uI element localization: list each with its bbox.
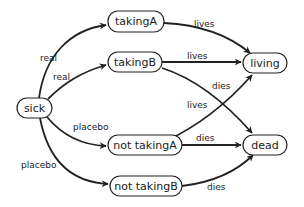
- edge-label-placebo-b: placebo: [21, 160, 57, 170]
- edge-not-takingA-to-dead: dies: [182, 133, 241, 145]
- edge-sick-to-takingB: real: [48, 65, 106, 99]
- edge-label-dies-not-a: dies: [196, 133, 215, 143]
- node-label-takingB: takingB: [114, 56, 156, 69]
- edge-label-real-b: real: [53, 72, 70, 82]
- edge-sick-to-not-takingA: placebo: [47, 117, 109, 146]
- node-not-takingB: not takingB: [110, 176, 182, 196]
- arrow-sick-to-takingB: [48, 65, 106, 99]
- edge-label-dies-not-b: dies: [207, 182, 226, 192]
- edge-takingA-to-living: lives: [164, 19, 250, 53]
- node-label-not-takingB: not takingB: [114, 180, 178, 193]
- edge-sick-to-takingA: real: [39, 25, 106, 98]
- edge-label-dies-b: dies: [212, 81, 231, 91]
- node-label-living: living: [250, 57, 280, 70]
- edge-label-placebo-a: placebo: [73, 122, 109, 132]
- node-label-not-takingA: not takingA: [113, 139, 177, 152]
- state-diagram: real real placebo placebo lives lives di…: [0, 0, 304, 207]
- edge-label-lives-not-a: lives: [187, 100, 208, 110]
- edge-label-lives-b: lives: [187, 51, 208, 61]
- node-label-sick: sick: [24, 102, 46, 115]
- edge-label-lives-a: lives: [194, 19, 215, 29]
- node-living: living: [243, 53, 287, 73]
- edge-takingB-to-living: lives: [162, 51, 241, 62]
- node-takingA: takingA: [108, 11, 164, 32]
- edge-label-real-a: real: [40, 53, 57, 63]
- node-takingB: takingB: [108, 52, 162, 72]
- node-label-takingA: takingA: [115, 15, 157, 28]
- arrow-not-takingA-to-living: [166, 75, 252, 141]
- node-sick: sick: [17, 98, 52, 118]
- edge-not-takingB-to-dead: dies: [182, 155, 253, 192]
- edge-not-takingA-to-living: lives: [166, 75, 252, 141]
- node-dead: dead: [243, 135, 287, 155]
- node-not-takingA: not takingA: [108, 135, 182, 155]
- node-label-dead: dead: [251, 139, 278, 152]
